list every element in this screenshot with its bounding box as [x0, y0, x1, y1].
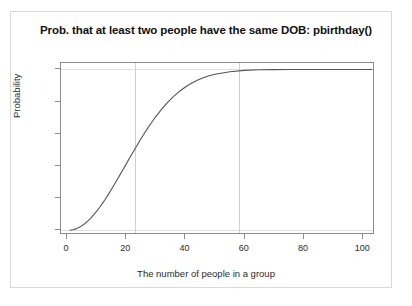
y-tick-mark [55, 68, 60, 69]
x-tick-mark [184, 234, 185, 239]
y-tick-mark [55, 133, 60, 134]
x-tick-mark [303, 234, 304, 239]
x-tick-label: 0 [46, 243, 86, 253]
x-tick-mark [362, 234, 363, 239]
x-tick-label: 40 [164, 243, 204, 253]
bottom-caption [0, 298, 412, 306]
x-axis-title: The number of people in a group [0, 268, 412, 279]
y-tick-mark [55, 197, 60, 198]
x-tick-label: 60 [224, 243, 264, 253]
y-tick-mark [55, 229, 60, 230]
chart-curve-canvas [61, 63, 373, 233]
x-tick-mark [125, 234, 126, 239]
x-tick-mark [66, 234, 67, 239]
plot-inner [61, 63, 373, 233]
x-tick-mark [244, 234, 245, 239]
x-tick-label: 80 [283, 243, 323, 253]
y-tick-mark [55, 165, 60, 166]
data-series-line [70, 69, 372, 230]
x-tick-label: 20 [105, 243, 145, 253]
chart-title: Prob. that at least two people have the … [0, 24, 412, 36]
plot-area [60, 62, 374, 234]
x-tick-label: 100 [342, 243, 382, 253]
y-tick-mark [55, 101, 60, 102]
y-axis-title: Probability [11, 74, 22, 118]
